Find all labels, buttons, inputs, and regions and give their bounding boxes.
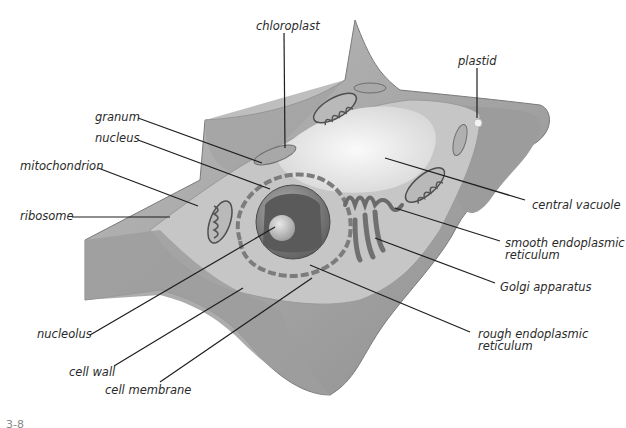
figure-number: 3-8 (6, 418, 24, 428)
label-nucleus: nucleus (95, 132, 139, 145)
label-granum: granum (95, 111, 140, 124)
label-plastid: plastid (458, 55, 497, 68)
leader-mitochondrion (98, 168, 198, 206)
label-cell-wall: cell wall (69, 366, 115, 379)
label-nucleolus: nucleolus (37, 328, 92, 341)
label-central-vacuole: central vacuole (532, 199, 621, 212)
plant-cell-illustration (0, 0, 626, 428)
chloroplast-top (354, 83, 386, 93)
label-rough-er-line2: reticulum (478, 340, 533, 353)
label-golgi-apparatus: Golgi apparatus (500, 281, 592, 294)
label-ribosome: ribosome (20, 210, 74, 223)
label-chloroplast: chloroplast (256, 20, 320, 33)
label-cell-membrane: cell membrane (105, 384, 191, 397)
label-smooth-er-line2: reticulum (505, 249, 560, 262)
plastid (474, 119, 482, 127)
label-mitochondrion: mitochondrion (20, 160, 103, 173)
